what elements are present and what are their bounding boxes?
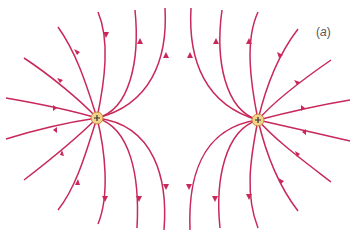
positive-charge-left <box>91 112 103 124</box>
figure-label: (a) <box>316 25 331 39</box>
label-close: ) <box>327 25 331 39</box>
positive-charge-right <box>252 114 264 126</box>
field-line-diagram <box>0 0 356 236</box>
label-letter: a <box>320 25 327 39</box>
